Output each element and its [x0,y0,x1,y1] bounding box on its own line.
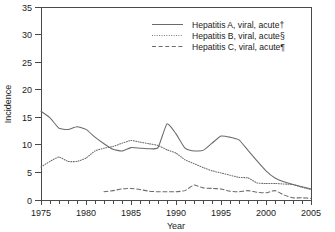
y-tick-label-5: 5 [27,168,32,178]
x-axis-title: Year [167,221,185,231]
y-tick-label-15: 15 [22,113,32,123]
y-axis-title: Incidence [3,85,13,124]
series-line-hepatitis-b [41,140,311,189]
y-tick-label-20: 20 [22,85,32,95]
y-tick-label-25: 25 [22,58,32,68]
x-axis-labels: 1975 1980 1985 1990 1995 2000 2005 [31,208,321,218]
x-tick-label-1990: 1990 [166,208,186,218]
chart-figure: 0 5 10 15 20 25 30 35 [0,0,335,232]
legend-label-hepatitis-b: Hepatitis B, viral, acute§ [192,31,285,41]
x-tick-label-2005: 2005 [301,208,321,218]
x-tick-label-1975: 1975 [31,208,51,218]
x-tick-label-1985: 1985 [121,208,141,218]
y-tick-label-0: 0 [27,196,32,206]
legend-label-hepatitis-a: Hepatitis A, viral, acute† [192,20,284,30]
y-tick-label-10: 10 [22,140,32,150]
y-tick-label-30: 30 [22,30,32,40]
y-tick-label-35: 35 [22,3,32,13]
x-tick-label-1995: 1995 [211,208,231,218]
x-tick-label-2000: 2000 [256,208,276,218]
x-tick-label-1980: 1980 [76,208,96,218]
x-axis-minor-ticks [41,200,311,205]
series-line-hepatitis-c [104,185,311,198]
series-line-hepatitis-a [41,111,311,189]
legend-label-hepatitis-c: Hepatitis C, viral, acute¶ [192,42,285,52]
chart-legend: Hepatitis A, viral, acute† Hepatitis B, … [152,20,285,52]
y-axis-ticks: 0 5 10 15 20 25 30 35 [22,3,41,206]
incidence-line-chart: 0 5 10 15 20 25 30 35 [0,0,335,232]
data-series-group [41,111,311,198]
